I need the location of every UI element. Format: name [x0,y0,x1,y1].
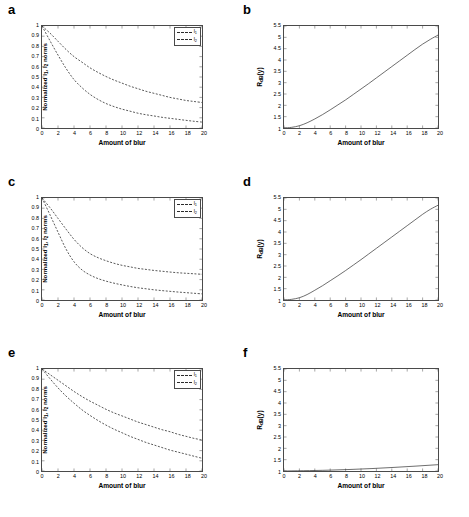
ytick-d-0: 1 [278,299,281,304]
xtick-d-7: 14 [390,303,396,308]
ytick-b-3: 2.5 [274,93,282,98]
figure-panel-grid: a00.10.20.30.40.50.60.70.80.910246810121… [0,0,469,517]
plot-area-a: 00.10.20.30.40.50.60.70.80.9102468101214… [41,25,203,129]
ytick-f-0: 1 [278,470,281,475]
xtick-c-4: 8 [105,303,108,308]
plot-canvas-b [284,26,438,128]
legend-item-c-l1: l1 [177,202,197,208]
xtick-a-5: 10 [120,131,126,136]
ytick-f-8: 5 [278,378,281,383]
legend-swatch-icon [177,382,192,384]
xtick-d-9: 18 [421,303,427,308]
ytick-b-4: 3 [278,81,281,86]
xtick-d-1: 2 [298,303,301,308]
xtick-c-0: 0 [41,303,44,308]
ytick-e-3: 0.3 [32,439,40,444]
ytick-a-4: 0.4 [32,86,40,91]
xtick-b-6: 12 [375,131,381,136]
ytick-d-2: 2 [278,276,281,281]
xtick-f-0: 0 [283,474,286,479]
ytick-d-6: 4 [278,230,281,235]
ytick-c-7: 0.7 [32,226,40,231]
panel-letter-a: a [8,2,15,17]
ytick-e-9: 0.9 [32,377,40,382]
xtick-a-2: 4 [73,131,76,136]
ytick-c-1: 0.1 [32,289,40,294]
xtick-b-0: 0 [283,131,286,136]
ytick-f-5: 3.5 [274,413,282,418]
xtick-a-7: 14 [152,131,158,136]
panel-letter-c: c [8,174,15,189]
y-axis-label-c: Normalized l1, l2 norms [41,215,49,283]
xtick-b-2: 4 [314,131,317,136]
xtick-b-5: 10 [359,131,365,136]
curve-f-RdB [284,383,438,471]
xtick-c-6: 12 [136,303,142,308]
xtick-e-3: 6 [89,474,92,479]
ytick-f-6: 4 [278,401,281,406]
ytick-f-1: 1.5 [274,459,282,464]
xtick-d-10: 20 [437,303,443,308]
legend-label: l2 [194,380,197,387]
ytick-e-2: 0.2 [32,449,40,454]
x-axis-label-e: Amount of blur [98,482,145,489]
xtick-e-8: 16 [169,474,175,479]
xtick-f-2: 4 [314,474,317,479]
ytick-a-7: 0.7 [32,54,40,59]
ytick-a-10: 1 [36,23,39,28]
xtick-e-4: 8 [105,474,108,479]
ytick-a-6: 0.6 [32,65,40,70]
legend-label: l1 [194,372,197,379]
ytick-c-0: 0 [36,299,39,304]
ytick-e-7: 0.7 [32,397,40,402]
xtick-c-9: 18 [185,303,191,308]
legend-swatch-icon [177,204,192,206]
xtick-e-1: 2 [57,474,60,479]
xtick-d-2: 4 [314,303,317,308]
panel-letter-d: d [243,174,251,189]
xtick-e-5: 10 [120,474,126,479]
xtick-e-6: 12 [136,474,142,479]
ytick-f-2: 2 [278,447,281,452]
xtick-b-3: 6 [329,131,332,136]
legend-swatch-icon [177,211,192,213]
legend-item-e-l2: l2 [177,380,197,386]
ytick-b-5: 3.5 [274,70,282,75]
ytick-d-9: 5.5 [274,195,282,200]
panel-letter-b: b [243,2,251,17]
xtick-f-8: 16 [406,474,412,479]
ytick-a-9: 0.9 [32,34,40,39]
ytick-f-7: 4.5 [274,389,282,394]
xtick-f-6: 12 [375,474,381,479]
xtick-c-8: 16 [169,303,175,308]
legend-label: l2 [194,209,197,216]
panel-f: f11.522.533.544.555.502468101214161820Am… [235,343,469,515]
ytick-c-4: 0.4 [32,258,40,263]
ytick-a-0: 0 [36,127,39,132]
xtick-e-9: 18 [185,474,191,479]
ytick-a-2: 0.2 [32,106,40,111]
plot-area-c: 00.10.20.30.40.50.60.70.80.9102468101214… [41,197,203,301]
xtick-e-7: 14 [152,474,158,479]
curve-d-RdB [284,205,438,300]
x-axis-label-b: Amount of blur [337,139,384,146]
plot-canvas-f [284,369,438,471]
xtick-a-8: 16 [169,131,175,136]
legend-item-e-l1: l1 [177,373,197,379]
panel-d: d11.522.533.544.555.502468101214161820Am… [235,172,469,344]
legend-c: l1l2 [174,199,201,218]
xtick-d-8: 16 [406,303,412,308]
ytick-c-10: 1 [36,195,39,200]
ytick-a-3: 0.3 [32,96,40,101]
ytick-c-8: 0.8 [32,216,40,221]
y-axis-label-b: RdB(y) [256,67,264,86]
xtick-d-3: 6 [329,303,332,308]
xtick-b-7: 14 [390,131,396,136]
ytick-c-6: 0.6 [32,237,40,242]
xtick-e-0: 0 [41,474,44,479]
ytick-d-5: 3.5 [274,242,282,247]
legend-label: l2 [194,37,197,44]
legend-label: l1 [194,201,197,208]
ytick-c-5: 0.5 [32,247,40,252]
x-axis-label-d: Amount of blur [337,311,384,318]
